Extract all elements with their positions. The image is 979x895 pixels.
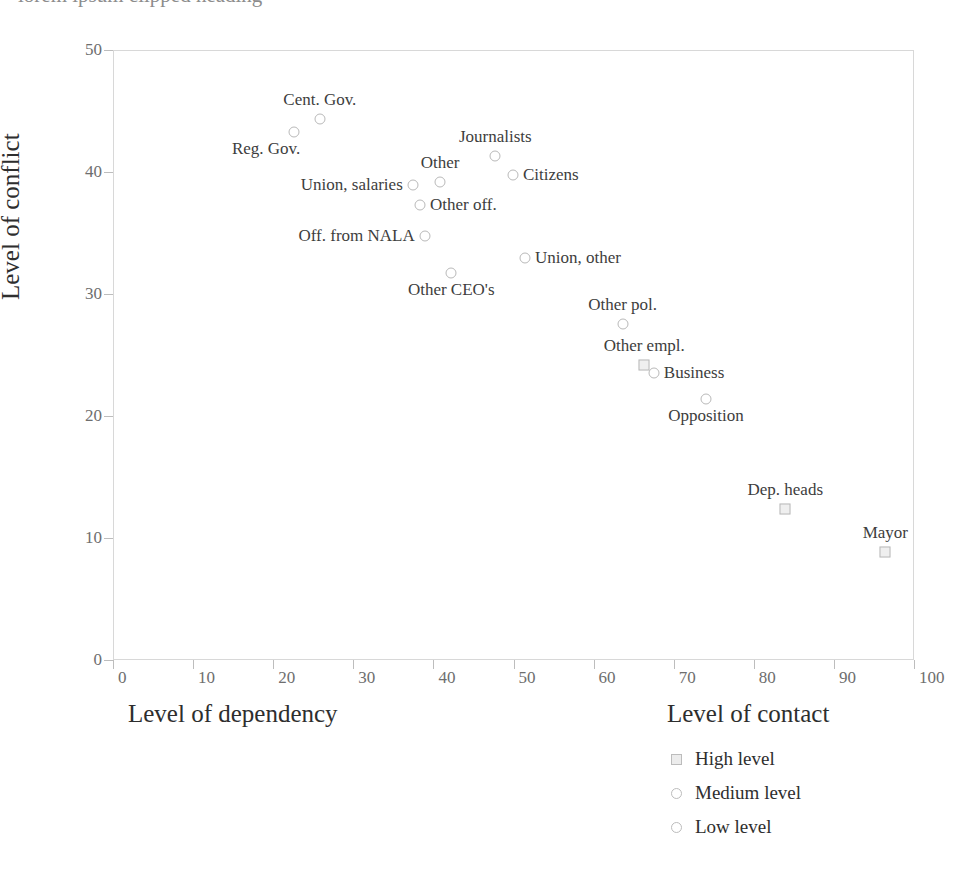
data-point-label: Opposition — [668, 406, 744, 426]
x-tick-mark — [273, 660, 274, 669]
x-tick-label: 60 — [599, 668, 659, 688]
x-tick-mark — [914, 660, 915, 669]
data-point-label: Dep. heads — [747, 480, 823, 500]
legend-entry[interactable]: High level — [667, 742, 967, 776]
y-tick-mark — [104, 538, 113, 539]
x-tick-label: 40 — [438, 668, 498, 688]
scatter-plot-area: Cent. Gov.Reg. Gov.JournalistsCitizensOt… — [113, 50, 914, 660]
data-point-marker — [507, 170, 518, 181]
legend-entry-label: Medium level — [695, 782, 801, 804]
x-tick-mark — [674, 660, 675, 669]
x-tick-mark — [754, 660, 755, 669]
clipped-heading: lorem ipsum clipped heading — [0, 0, 979, 14]
x-tick-label: 0 — [118, 668, 178, 688]
x-tick-mark — [834, 660, 835, 669]
y-tick-label: 40 — [12, 162, 102, 182]
circle-marker-icon — [671, 788, 682, 799]
x-tick-label: 20 — [278, 668, 338, 688]
data-point-label: Other — [421, 153, 460, 173]
data-point-label: Business — [664, 363, 724, 383]
y-tick-mark — [104, 294, 113, 295]
data-point-marker — [407, 180, 418, 191]
y-tick-label: 30 — [12, 284, 102, 304]
x-tick-label: 80 — [759, 668, 819, 688]
data-point-marker — [314, 114, 325, 125]
x-tick-mark — [594, 660, 595, 669]
x-tick-label: 30 — [358, 668, 418, 688]
y-tick-label: 20 — [12, 406, 102, 426]
data-point-marker — [519, 253, 530, 264]
x-tick-label: 100 — [919, 668, 979, 688]
data-point-marker — [414, 199, 425, 210]
x-tick-mark — [433, 660, 434, 669]
x-tick-mark — [193, 660, 194, 669]
legend-title: Level of contact — [667, 700, 967, 728]
y-axis-title: Level of conflict — [0, 133, 25, 300]
data-point-label: Other empl. — [604, 336, 685, 356]
data-point-marker — [419, 231, 430, 242]
data-point-marker — [648, 368, 659, 379]
data-point-marker — [780, 503, 791, 514]
x-tick-label: 10 — [198, 668, 258, 688]
data-point-marker — [700, 393, 711, 404]
x-tick-mark — [353, 660, 354, 669]
data-point-marker — [617, 319, 628, 330]
x-tick-mark — [113, 660, 114, 669]
data-point-marker — [446, 268, 457, 279]
legend-entry[interactable]: Low level — [667, 810, 967, 844]
y-tick-mark — [104, 172, 113, 173]
x-tick-mark — [514, 660, 515, 669]
legend-entries: High levelMedium levelLow level — [667, 742, 967, 844]
data-point-label: Reg. Gov. — [232, 139, 300, 159]
x-axis-title: Level of dependency — [128, 700, 338, 728]
data-point-label: Cent. Gov. — [283, 90, 356, 110]
data-point-marker — [880, 547, 891, 558]
y-tick-mark — [104, 416, 113, 417]
y-tick-mark — [104, 660, 113, 661]
data-point-marker — [435, 176, 446, 187]
legend-entry-label: High level — [695, 748, 775, 770]
y-tick-label: 0 — [12, 650, 102, 670]
legend-entry[interactable]: Medium level — [667, 776, 967, 810]
y-tick-label: 50 — [12, 40, 102, 60]
legend: Level of contact High levelMedium levelL… — [667, 700, 967, 844]
data-point-label: Other off. — [430, 195, 497, 215]
square-marker-icon — [671, 754, 682, 765]
x-tick-label: 70 — [679, 668, 739, 688]
data-point-label: Mayor — [863, 523, 908, 543]
y-tick-label: 10 — [12, 528, 102, 548]
clipped-heading-text: lorem ipsum clipped heading — [18, 0, 262, 8]
data-point-label: Other CEO's — [408, 280, 495, 300]
data-point-marker — [490, 150, 501, 161]
y-tick-mark — [104, 50, 113, 51]
circle-marker-icon — [671, 822, 682, 833]
x-tick-label: 50 — [519, 668, 579, 688]
data-point-label: Journalists — [459, 127, 532, 147]
data-point-label: Other pol. — [588, 295, 657, 315]
x-tick-label: 90 — [839, 668, 899, 688]
data-point-marker — [639, 359, 650, 370]
data-point-label: Off. from NALA — [298, 226, 414, 246]
data-point-label: Union, salaries — [301, 175, 403, 195]
data-point-label: Union, other — [535, 248, 621, 268]
data-point-label: Citizens — [523, 165, 579, 185]
data-point-marker — [289, 126, 300, 137]
legend-entry-label: Low level — [695, 816, 772, 838]
